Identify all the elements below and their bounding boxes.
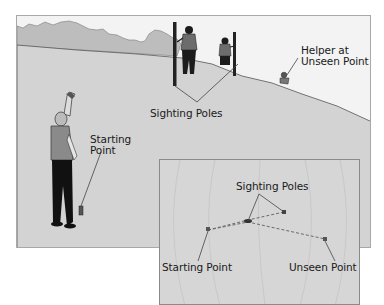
- label-sighting-poles: Sighting Poles: [150, 108, 222, 119]
- inset-label-unseen-point: Unseen Point: [289, 262, 357, 273]
- sighting-pole-2: [233, 32, 236, 76]
- starting-stake: [79, 206, 83, 215]
- inset-label-starting-point: Starting Point: [162, 262, 232, 273]
- label-helper-line2: Unseen Point: [301, 56, 369, 67]
- unseen-point-marker: [323, 237, 327, 241]
- label-starting-line2: Point: [90, 145, 116, 156]
- sighting-pole-1: [173, 22, 177, 86]
- inset-label-sighting-poles: Sighting Poles: [236, 181, 308, 192]
- starting-point-marker: [206, 227, 210, 231]
- inset-plan-view-panel: Sighting Poles Starting Point Unseen Poi…: [159, 159, 360, 305]
